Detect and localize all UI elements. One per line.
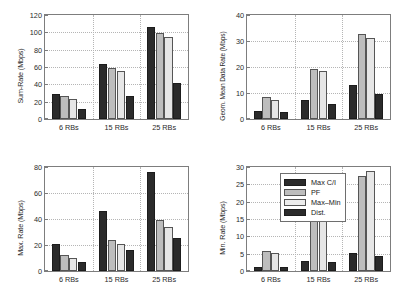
bar bbox=[78, 109, 86, 119]
bar bbox=[117, 244, 125, 271]
gridline-vertical bbox=[93, 15, 94, 119]
legend-item[interactable]: Max–Min bbox=[284, 198, 341, 207]
y-tick-label: 20 bbox=[34, 97, 42, 106]
plot-area: Max C/IPFMax–MinDist. 0510152025306 RBs1… bbox=[246, 166, 391, 272]
y-tick-label: 80 bbox=[34, 45, 42, 54]
y-axis-label: Max. Rate (Mbps) bbox=[16, 176, 25, 280]
bar bbox=[310, 69, 318, 119]
bar bbox=[117, 71, 125, 119]
y-tick-label: 80 bbox=[34, 163, 42, 172]
bar bbox=[366, 38, 374, 119]
legend-item[interactable]: PF bbox=[284, 188, 341, 197]
bar bbox=[280, 267, 288, 271]
bar bbox=[349, 85, 357, 119]
y-tick-mark bbox=[247, 67, 250, 68]
y-tick-label: 40 bbox=[34, 80, 42, 89]
x-tick-label: 6 RBs bbox=[261, 123, 281, 132]
x-tick-label: 25 RBs bbox=[152, 123, 176, 132]
gridline-vertical bbox=[93, 167, 94, 271]
bar bbox=[254, 111, 262, 119]
bar bbox=[280, 112, 288, 119]
x-tick-label: 25 RBs bbox=[354, 275, 378, 284]
gridline-horizontal bbox=[45, 193, 188, 194]
legend: Max C/IPFMax–MinDist. bbox=[280, 173, 346, 222]
y-tick-label: 0 bbox=[38, 267, 42, 276]
y-tick-label: 0 bbox=[240, 115, 244, 124]
x-tick-label: 25 RBs bbox=[354, 123, 378, 132]
bar bbox=[108, 240, 116, 271]
gridline-horizontal bbox=[45, 32, 188, 33]
y-tick-mark bbox=[45, 219, 48, 220]
bar bbox=[69, 258, 77, 271]
bar bbox=[60, 96, 68, 119]
legend-label: Max–Min bbox=[311, 199, 341, 206]
y-tick-label: 20 bbox=[34, 241, 42, 250]
y-tick-label: 30 bbox=[236, 163, 244, 172]
y-tick-label: 15 bbox=[236, 215, 244, 224]
x-tick-label: 6 RBs bbox=[261, 275, 281, 284]
bar bbox=[375, 94, 383, 119]
bar bbox=[126, 96, 134, 119]
bar bbox=[173, 238, 181, 271]
bar bbox=[319, 216, 327, 271]
bar bbox=[262, 251, 270, 271]
legend-swatch bbox=[284, 209, 306, 216]
legend-label: Dist. bbox=[311, 209, 326, 216]
bar bbox=[328, 262, 336, 271]
y-tick-label: 20 bbox=[236, 197, 244, 206]
bar bbox=[358, 176, 366, 271]
y-axis-label: Sum-Rate (Mbps) bbox=[16, 24, 25, 128]
x-tick-label: 15 RBs bbox=[307, 275, 331, 284]
legend-swatch bbox=[284, 189, 306, 196]
bar bbox=[60, 255, 68, 271]
panel-geom-mean-data-rate: Geom. Mean Data Rate (Mbps) 0102030406 R… bbox=[202, 0, 404, 151]
y-tick-label: 60 bbox=[34, 63, 42, 72]
gridline-vertical bbox=[295, 15, 296, 119]
y-tick-label: 10 bbox=[236, 89, 244, 98]
y-tick-label: 40 bbox=[236, 11, 244, 20]
bar bbox=[349, 253, 357, 271]
y-tick-mark bbox=[45, 167, 48, 168]
figure-bar-chart-grid: Sum-Rate (Mbps) 0204060801001206 RBs15 R… bbox=[0, 0, 404, 303]
bar bbox=[99, 211, 107, 271]
bar bbox=[156, 220, 164, 271]
legend-item[interactable]: Max C/I bbox=[284, 178, 341, 187]
legend-swatch bbox=[284, 179, 306, 186]
y-tick-label: 40 bbox=[34, 215, 42, 224]
y-tick-label: 25 bbox=[236, 180, 244, 189]
x-tick-label: 15 RBs bbox=[105, 275, 129, 284]
y-tick-mark bbox=[247, 202, 250, 203]
y-tick-mark bbox=[247, 118, 250, 119]
gridline-vertical bbox=[140, 167, 141, 271]
bar bbox=[262, 97, 270, 119]
plot-area: 0204060801001206 RBs15 RBs25 RBs bbox=[44, 14, 189, 120]
bar bbox=[126, 250, 134, 271]
y-tick-mark bbox=[247, 236, 250, 237]
legend-label: Max C/I bbox=[311, 179, 336, 186]
bar bbox=[310, 217, 318, 271]
y-tick-mark bbox=[247, 184, 250, 185]
y-tick-label: 120 bbox=[30, 11, 42, 20]
y-tick-mark bbox=[247, 41, 250, 42]
x-tick-label: 15 RBs bbox=[307, 123, 331, 132]
x-tick-label: 15 RBs bbox=[105, 123, 129, 132]
y-tick-mark bbox=[247, 254, 250, 255]
x-tick-label: 6 RBs bbox=[59, 123, 79, 132]
y-tick-mark bbox=[247, 15, 250, 16]
y-tick-label: 20 bbox=[236, 63, 244, 72]
x-tick-label: 25 RBs bbox=[152, 275, 176, 284]
plot-inner bbox=[45, 15, 188, 119]
panel-sum-rate: Sum-Rate (Mbps) 0204060801001206 RBs15 R… bbox=[0, 0, 202, 151]
bar bbox=[271, 100, 279, 120]
legend-item[interactable]: Dist. bbox=[284, 208, 341, 217]
bar bbox=[99, 64, 107, 119]
bar bbox=[375, 256, 383, 271]
y-tick-mark bbox=[45, 270, 48, 271]
y-tick-mark bbox=[45, 118, 48, 119]
bar bbox=[78, 262, 86, 271]
gridline-vertical bbox=[140, 15, 141, 119]
plot-inner bbox=[45, 167, 188, 271]
legend-label: PF bbox=[311, 189, 320, 196]
y-tick-label: 5 bbox=[240, 249, 244, 258]
bar bbox=[319, 71, 327, 119]
